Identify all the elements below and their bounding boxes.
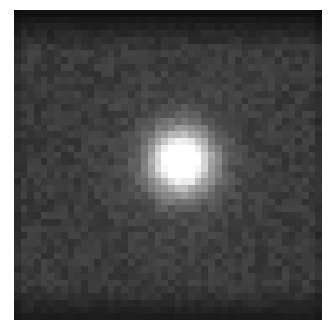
star-image	[14, 10, 322, 320]
star-image-frame	[14, 10, 322, 320]
